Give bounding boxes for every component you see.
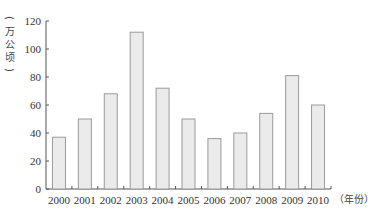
x-tick-label: 2001 [74, 194, 96, 206]
bar-2009 [286, 76, 299, 189]
y-tick-label: 40 [30, 127, 42, 139]
y-tick-label: 120 [25, 15, 42, 27]
y-axis-title-char: 公 [5, 39, 15, 50]
bar-2006 [208, 139, 221, 189]
y-tick-label: 0 [36, 183, 42, 195]
y-axis-title-char: 万 [5, 26, 15, 37]
bar-2003 [130, 32, 143, 189]
x-tick-label: 2002 [100, 194, 122, 206]
bar-2007 [234, 133, 247, 189]
y-axis-title-char: ) [4, 68, 15, 72]
x-tick-label: 2006 [203, 194, 226, 206]
bar-2004 [156, 88, 169, 189]
bar-2002 [104, 94, 117, 189]
y-tick-label: 60 [30, 99, 42, 111]
x-tick-label: 2004 [152, 194, 175, 206]
bar-2008 [260, 113, 273, 189]
y-tick-label: 100 [25, 43, 42, 55]
bars [52, 32, 324, 189]
x-tick-label: 2010 [307, 194, 330, 206]
x-axis-title: （年份） [334, 193, 374, 205]
y-axis-title-char: ( [4, 16, 15, 20]
x-tick-label: 2000 [48, 194, 71, 206]
x-tick-label: 2007 [229, 194, 252, 206]
x-tick-label: 2005 [178, 194, 201, 206]
x-tick-label: 2008 [255, 194, 278, 206]
bar-2005 [182, 119, 195, 189]
x-tick-label: 2003 [126, 194, 149, 206]
bar-2010 [312, 105, 325, 189]
y-tick-label: 80 [30, 71, 42, 83]
y-axis-title: (万公顷) [4, 16, 15, 72]
bar-2000 [52, 137, 65, 189]
y-tick-label: 20 [30, 155, 42, 167]
bar-chart: 020406080100120 200020012002200320042005… [0, 0, 375, 218]
y-axis-title-char: 顷 [5, 52, 15, 63]
bar-2001 [78, 119, 91, 189]
x-tick-label: 2009 [281, 194, 304, 206]
y-axis: 020406080100120 [25, 15, 50, 195]
